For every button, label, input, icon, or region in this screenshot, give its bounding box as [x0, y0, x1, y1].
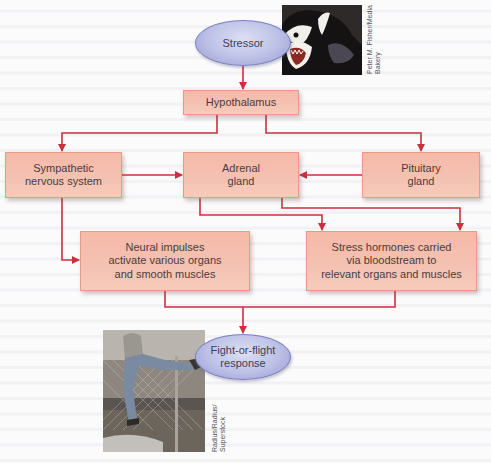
runner-credit-line-2: Superstock [219, 417, 226, 452]
sympathetic-label-line-1: Sympathetic [33, 162, 94, 174]
neural-label-line-1: Neural impulses [126, 241, 205, 253]
runner-credit-line-1: Radius/Radius/ [211, 405, 218, 452]
hypothalamus-label: Hypothalamus [206, 96, 276, 110]
adrenal-label-line-1: Adrenal [222, 162, 260, 174]
stressor-node: Stressor [195, 20, 291, 66]
dog-photo-credit: Peter M. Fisher/Media Bakery [366, 8, 382, 74]
adrenal-gland-node: Adrenal gland [183, 152, 299, 198]
pituitary-label-line-2: gland [408, 175, 435, 187]
pituitary-gland-node: Pituitary gland [362, 152, 480, 198]
hormones-label-line-1: Stress hormones carried [332, 241, 452, 253]
fight-flight-label-line-1: Fight-or-flight [211, 344, 276, 356]
hormones-label-line-3: relevant organs and muscles [321, 268, 462, 280]
dog-credit-line-1: Peter M. Fisher/Media [366, 5, 373, 74]
sympathetic-label-line-2: nervous system [25, 175, 102, 187]
dog-illustration [282, 5, 362, 75]
stressor-label: Stressor [223, 37, 264, 50]
runner-illustration [103, 330, 205, 452]
person-climbing-fence-photo [103, 330, 205, 452]
hormones-label-line-2: via bloodstream to [347, 254, 437, 266]
stress-hormones-node: Stress hormones carried via bloodstream … [306, 231, 477, 291]
dog-credit-line-2: Bakery [374, 52, 381, 74]
sympathetic-nervous-system-node: Sympathetic nervous system [5, 152, 122, 198]
snarling-dog-photo [282, 5, 362, 75]
runner-photo-credit: Radius/Radius/ Superstock [211, 392, 227, 452]
fight-flight-label-line-2: response [220, 357, 265, 369]
fight-or-flight-node: Fight-or-flight response [195, 334, 291, 380]
neural-impulses-node: Neural impulses activate various organs … [80, 231, 250, 291]
adrenal-label-line-2: gland [228, 175, 255, 187]
pituitary-label-line-1: Pituitary [401, 162, 441, 174]
neural-label-line-3: and smooth muscles [115, 268, 216, 280]
neural-label-line-2: activate various organs [108, 254, 221, 266]
hypothalamus-node: Hypothalamus [183, 90, 299, 115]
